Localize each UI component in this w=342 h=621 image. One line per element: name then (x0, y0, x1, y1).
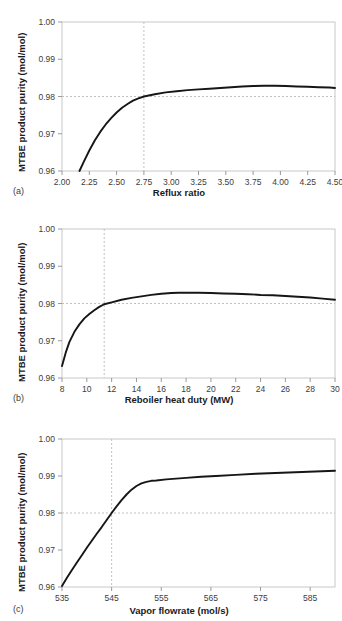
x-tick-label: 18 (181, 384, 191, 394)
y-axis-title-a: MTBE product purity (mol/mol) (16, 33, 27, 172)
y-axis-title-b: MTBE product purity (mol/mol) (16, 243, 27, 382)
x-tick-label: 14 (132, 384, 142, 394)
x-axis-title-a: Reflux ratio (8, 187, 342, 198)
x-tick-label: 12 (107, 384, 117, 394)
y-tick-label: 0.98 (38, 508, 55, 518)
x-tick-label: 585 (303, 593, 317, 603)
panel-b: 0.960.970.980.991.0081012141618202224262… (0, 207, 342, 414)
y-tick-label: 0.97 (38, 545, 55, 555)
y-tick-label: 0.98 (38, 92, 55, 102)
x-tick-label: 28 (305, 384, 315, 394)
y-tick-label: 1.00 (38, 17, 55, 27)
x-tick-label: 3.25 (190, 177, 207, 187)
x-tick-label: 16 (157, 384, 167, 394)
x-tick-label: 4.25 (299, 177, 316, 187)
y-tick-label: 0.99 (38, 471, 55, 481)
y-tick-label: 0.96 (38, 373, 55, 383)
y-tick-label: 0.98 (38, 299, 55, 309)
x-tick-label: 2.75 (136, 177, 153, 187)
x-tick-label: 2.00 (54, 177, 71, 187)
mtbe-purity-sensitivity-figure: 0.960.970.980.991.002.002.252.502.753.00… (0, 0, 342, 621)
panel-c: 0.960.970.980.991.00535545555565575585 (… (0, 414, 342, 621)
x-tick-label: 8 (60, 384, 65, 394)
x-tick-label: 3.50 (218, 177, 235, 187)
x-axis-title-c: Vapor flowrate (mol/s) (8, 605, 342, 616)
y-tick-label: 0.99 (38, 261, 55, 271)
x-tick-label: 26 (281, 384, 291, 394)
x-tick-label: 535 (55, 593, 69, 603)
x-tick-label: 545 (105, 593, 119, 603)
plot-area-a: 0.960.970.980.991.002.002.252.502.753.00… (0, 0, 342, 207)
x-tick-label: 575 (253, 593, 267, 603)
x-tick-label: 3.00 (163, 177, 180, 187)
x-tick-label: 4.50 (327, 177, 342, 187)
x-tick-label: 4.00 (272, 177, 289, 187)
y-axis-title-c: MTBE product purity (mol/mol) (16, 453, 27, 592)
y-tick-label: 0.99 (38, 54, 55, 64)
y-tick-label: 1.00 (38, 224, 55, 234)
panel-a: 0.960.970.980.991.002.002.252.502.753.00… (0, 0, 342, 207)
plot-area-c: 0.960.970.980.991.00535545555565575585 (0, 414, 342, 621)
y-tick-label: 0.96 (38, 166, 55, 176)
x-tick-label: 3.75 (245, 177, 262, 187)
x-tick-label: 24 (256, 384, 266, 394)
x-tick-label: 22 (231, 384, 241, 394)
plot-area-b: 0.960.970.980.991.0081012141618202224262… (0, 207, 342, 414)
data-curve (79, 86, 335, 171)
x-tick-label: 2.25 (81, 177, 98, 187)
data-curve (62, 471, 335, 586)
y-tick-label: 0.96 (38, 582, 55, 592)
y-tick-label: 0.97 (38, 336, 55, 346)
y-tick-label: 0.97 (38, 129, 55, 139)
x-tick-label: 20 (206, 384, 216, 394)
x-axis-title-b: Reboiler heat duty (MW) (8, 394, 342, 405)
x-tick-label: 555 (154, 593, 168, 603)
x-tick-label: 10 (82, 384, 92, 394)
x-tick-label: 565 (204, 593, 218, 603)
x-tick-label: 2.50 (108, 177, 125, 187)
x-tick-label: 30 (330, 384, 340, 394)
y-tick-label: 1.00 (38, 434, 55, 444)
